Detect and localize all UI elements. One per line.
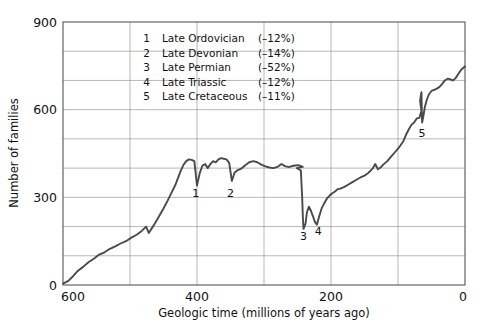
legend-event-name: Late Triassic xyxy=(162,76,227,88)
x-tick-label: 400 xyxy=(185,289,209,304)
event-marker-4: 4 xyxy=(315,225,322,238)
x-tick-label: 0 xyxy=(459,289,467,304)
legend-magnitude: (–11%) xyxy=(258,90,295,102)
chart-canvas: 0300600900 6004002000 12345 1Late Ordovi… xyxy=(0,0,480,330)
x-tick-label: 200 xyxy=(319,289,343,304)
legend-magnitude: (–52%) xyxy=(258,61,295,73)
y-axis-tick-labels: 0300600900 xyxy=(33,15,57,293)
y-axis-title: Number of families xyxy=(7,98,21,208)
legend-event-name: Late Ordovician xyxy=(162,32,245,44)
legend-event-name: Late Devonian xyxy=(162,47,238,59)
y-tick-label: 900 xyxy=(33,15,57,30)
extinction-legend: 1Late Ordovician(–12%)2Late Devonian(–14… xyxy=(143,32,294,102)
y-tick-label: 0 xyxy=(49,278,57,293)
event-marker-5: 5 xyxy=(419,127,426,140)
legend-number: 5 xyxy=(143,90,150,102)
legend-event-name: Late Permian xyxy=(162,61,231,73)
legend-number: 1 xyxy=(143,32,150,44)
legend-number: 4 xyxy=(143,76,150,88)
event-marker-3: 3 xyxy=(300,230,307,243)
legend-magnitude: (–12%) xyxy=(258,32,295,44)
x-tick-label: 600 xyxy=(61,289,85,304)
x-axis-tick-labels: 6004002000 xyxy=(61,289,467,304)
x-axis-title: Geologic time (millions of years ago) xyxy=(158,306,370,320)
legend-number: 3 xyxy=(143,61,150,73)
diversity-chart-figure: 0300600900 6004002000 12345 1Late Ordovi… xyxy=(0,0,480,330)
legend-magnitude: (–14%) xyxy=(258,47,295,59)
event-marker-2: 2 xyxy=(227,187,234,200)
y-tick-label: 300 xyxy=(33,190,57,205)
y-tick-label: 600 xyxy=(33,102,57,117)
extinction-event-markers: 12345 xyxy=(192,127,425,242)
event-marker-1: 1 xyxy=(192,187,199,200)
legend-number: 2 xyxy=(143,47,150,59)
legend-event-name: Late Cretaceous xyxy=(162,90,247,102)
legend-magnitude: (–12%) xyxy=(258,76,295,88)
